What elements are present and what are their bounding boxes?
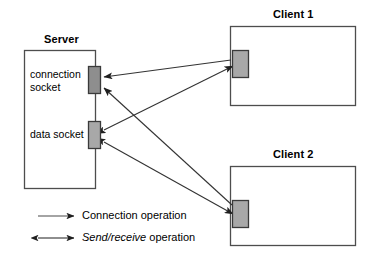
server-data-socket[interactable] [89, 122, 101, 149]
arrow-client2-connection [104, 88, 232, 205]
client1-box [231, 27, 356, 106]
connection-socket-label-line2: socket [30, 81, 60, 94]
legend-connection-operation-label: Connection operation [82, 209, 187, 221]
client2-title: Client 2 [273, 148, 314, 160]
data-socket-label: data socket [30, 128, 84, 141]
legend-send-receive-rest: operation [146, 231, 195, 243]
client2-box [231, 167, 356, 246]
legend-send-receive-operation-label: Send/receive operation [82, 231, 195, 243]
connection-socket-label-line1: connection [30, 68, 81, 81]
arrow-client2-data-exchange [104, 142, 233, 214]
client1-title: Client 1 [273, 8, 314, 20]
arrow-client1-connection [104, 60, 231, 77]
arrow-client1-data-exchange [104, 66, 233, 130]
client1-socket[interactable] [233, 51, 249, 78]
client2-socket[interactable] [233, 201, 249, 228]
server-connection-socket[interactable] [89, 67, 101, 94]
legend-send-receive-italic: Send/receive [82, 231, 146, 243]
server-title: Server [44, 33, 79, 45]
